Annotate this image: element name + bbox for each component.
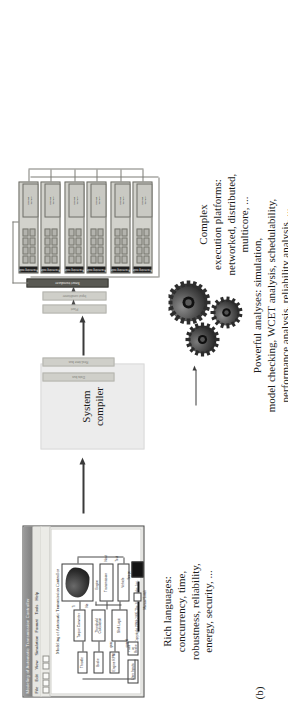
feedback-line: [82, 678, 134, 679]
shared-memory-label: Shared memory: [119, 196, 124, 205]
processing-node: Processing node Shared memory: [132, 181, 152, 273]
platform-bar-plant: Plant: [42, 304, 106, 313]
block-shift-logic[interactable]: Shift Logic: [111, 609, 127, 641]
core: [68, 237, 74, 245]
platform-bar-real-time-bus: Real-time bus: [42, 357, 114, 366]
core: [114, 246, 120, 254]
processing-node: Processing node Shared memory: [40, 181, 60, 273]
core: [97, 228, 103, 236]
block-engine[interactable]: [61, 563, 93, 601]
core: [136, 228, 142, 236]
core: [44, 237, 50, 245]
core-grid: [68, 228, 81, 263]
platform-bar-label-input-conditioner: Input conditioner: [62, 294, 86, 298]
system-compiler-label: System compiler: [79, 386, 105, 425]
signal-label-ti: Ti: [71, 605, 75, 607]
node-strip: Processing node: [65, 266, 83, 272]
core: [90, 246, 96, 254]
block-label-torque-converter: Torque Converter: [77, 613, 80, 638]
block-manual-switch[interactable]: [133, 592, 141, 601]
node-bus-rail: [28, 168, 143, 169]
node-bus-stub: [120, 169, 121, 181]
signal-label-tout: Tout: [114, 555, 118, 561]
core: [90, 255, 96, 263]
block-scope[interactable]: [131, 561, 143, 577]
menu-edit[interactable]: Edit: [33, 674, 38, 681]
block-torque-converter[interactable]: Torque Converter: [73, 609, 85, 641]
arrow-compiler-to-platform: [78, 307, 88, 355]
core-grid: [114, 228, 127, 263]
block-pass-or-brake[interactable]: Pass or Brake: [127, 641, 138, 655]
platform-bar-label-real-time-bus: Real-time bus: [68, 360, 88, 364]
block-vehicle[interactable]: Vehicle: [117, 563, 129, 601]
core: [97, 237, 103, 245]
core: [51, 237, 57, 245]
platform-bar-data-bus: Data bus: [42, 372, 114, 381]
toolbar-run-icon[interactable]: [42, 662, 49, 669]
shared-memory-block: Shared memory: [22, 183, 38, 217]
core: [75, 255, 81, 263]
node-strip: Processing node: [19, 266, 37, 272]
core: [29, 237, 35, 245]
core: [51, 228, 57, 236]
block-label-scope: Scope: [126, 570, 130, 579]
core: [22, 228, 28, 236]
core: [136, 237, 142, 245]
arrow-shaft: [82, 463, 83, 513]
menu-file[interactable]: File: [33, 686, 38, 693]
node-label: Processing node: [110, 268, 129, 271]
execution-platform-diagram: Plant Input conditioner Smart transducer…: [8, 137, 178, 313]
node-label: Processing node: [18, 268, 37, 271]
signal-label-speed: speed: [124, 639, 128, 647]
core: [136, 246, 142, 254]
platform-bar-label-data-bus: Data bus: [72, 375, 85, 379]
block-brake[interactable]: Brake: [93, 651, 103, 673]
core: [97, 246, 103, 254]
menu-tools[interactable]: Tools: [33, 604, 38, 614]
core: [143, 255, 149, 263]
node-label: Processing node: [86, 268, 105, 271]
arrow-head-icon: [192, 365, 196, 370]
signal-line: [82, 641, 83, 651]
figure-caption: (b): [252, 686, 264, 699]
shared-memory-block: Shared memory: [68, 183, 84, 217]
platform-bottom-route: [158, 177, 159, 277]
block-label-threshold-calculation: Threshold Calculation: [95, 611, 102, 639]
signal-label-nout: Nout: [103, 555, 107, 561]
signal-label-ne: Ne: [84, 603, 88, 607]
block-throttle[interactable]: Throttle: [77, 651, 87, 673]
arrow-shaft: [82, 321, 83, 355]
menu-format[interactable]: Format: [33, 619, 38, 632]
signal-line: [79, 601, 80, 609]
menu-view[interactable]: View: [33, 660, 38, 669]
core: [143, 228, 149, 236]
figure-canvas: Modeling of Automatic Transmission Contr…: [0, 0, 288, 711]
note-complex-platforms: Complex execution platforms: networked, …: [196, 129, 251, 319]
feedback-line: [134, 659, 135, 679]
core: [143, 246, 149, 254]
note-powerful-analyses: Powerful analyses: simulation, model che…: [250, 155, 288, 455]
simulink-model-window: Modeling of Automatic Transmission Contr…: [22, 525, 144, 697]
window-titlebar: Modeling of Automatic Transmission Contr…: [23, 526, 33, 696]
toolbar-save-icon[interactable]: [42, 672, 49, 679]
block-transmission[interactable]: Transmission: [99, 563, 113, 601]
figure-page: Modeling of Automatic Transmission Contr…: [0, 0, 288, 711]
window-toolbar: [40, 526, 50, 696]
block-threshold-calculation[interactable]: Threshold Calculation: [91, 609, 105, 641]
core: [114, 237, 120, 245]
arrow-model-to-compiler: [78, 455, 88, 513]
toolbar-open-icon[interactable]: [42, 679, 49, 686]
toolbar-stop-icon[interactable]: [42, 655, 49, 662]
platform-bar-label-plant: Plant: [70, 307, 77, 311]
toolbar-new-icon[interactable]: [42, 686, 49, 693]
note-rich-languages: Rich languages: concurrency, time, robus…: [160, 521, 215, 701]
shared-memory-block: Shared memory: [44, 183, 60, 217]
arrow-compiler-to-gears: [190, 355, 200, 405]
model-canvas[interactable]: Modeling of Automatic Transmission Contr…: [50, 528, 141, 694]
core-grid: [90, 228, 103, 263]
menu-simulation[interactable]: Simulation: [33, 635, 38, 655]
block-engine-rpm[interactable]: Engine RPM: [109, 651, 119, 673]
core: [68, 228, 74, 236]
menu-help[interactable]: Help: [33, 591, 38, 600]
shared-memory-label: Shared memory: [49, 196, 54, 205]
